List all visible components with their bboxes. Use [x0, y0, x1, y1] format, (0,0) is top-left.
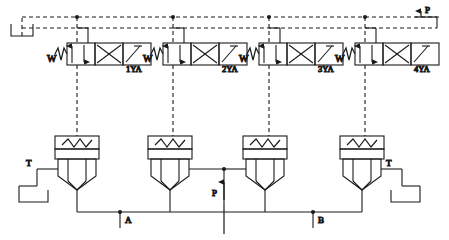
solenoid-diagonal-2 [222, 46, 236, 62]
solenoid-valve-4-label: 4YA [414, 64, 430, 74]
cv1-poppet-body [58, 159, 96, 190]
cv3-spring [250, 139, 280, 147]
line-t-right [402, 169, 420, 186]
junction-dot-1 [75, 15, 79, 19]
solenoid-valve-3[interactable] [247, 43, 343, 65]
pilot-solid-valve-3 [269, 28, 280, 43]
cv1-mid-chamber [55, 149, 99, 159]
cv3-mid-chamber [243, 149, 287, 159]
valve-box-a-3 [259, 43, 287, 65]
valve-box-a-4 [355, 43, 383, 65]
spring-symbol-2 [151, 48, 163, 60]
port-a [118, 210, 122, 228]
solenoid-diagonal-1 [126, 46, 140, 62]
cv1-spring [62, 139, 92, 147]
cv4-poppet-body [343, 159, 381, 190]
cartridge-valve-4[interactable] [340, 136, 384, 190]
spring-symbol-1 [55, 48, 67, 60]
cartridge-valve-2[interactable] [148, 136, 192, 190]
spring-symbol-4 [343, 48, 355, 60]
solenoid-diagonal-4 [414, 46, 428, 62]
line-t-left [19, 169, 37, 186]
valve-box-a-2 [163, 43, 191, 65]
valve-box-a-1 [67, 43, 95, 65]
port-p-bottom [222, 167, 226, 234]
spring-label-1: W [47, 53, 57, 64]
cv2-poppet-body [151, 159, 189, 190]
spring-label-3: W [239, 53, 249, 64]
tank-bottom-left [19, 186, 48, 202]
spring-label-2: W [143, 53, 153, 64]
solenoid-valve-2-label: 2YA [222, 64, 238, 74]
port-b-label: B [318, 215, 324, 225]
solenoid-valve-4[interactable] [343, 43, 439, 65]
cv4-spring [347, 139, 377, 147]
port-p-bottom-label: P [212, 188, 217, 198]
port-t-left-label: T [26, 158, 32, 168]
tank-bottom-right [391, 186, 420, 202]
schematic-canvas: P 1YA W 2YA [0, 0, 449, 240]
solenoid-valve-1[interactable] [55, 43, 151, 65]
port-p-top-label: P [425, 5, 430, 15]
junction-dot-2 [171, 15, 175, 19]
port-b [311, 210, 315, 228]
solenoid-valve-2[interactable] [151, 43, 247, 65]
cv4-mid-chamber [340, 149, 384, 159]
cartridge-valve-1[interactable] [55, 136, 99, 190]
pilot-solid-valve-2 [173, 28, 184, 43]
spring-label-4: W [335, 53, 345, 64]
solenoid-diagonal-3 [318, 46, 332, 62]
port-a-label: A [125, 215, 132, 225]
spring-symbol-3 [247, 48, 259, 60]
cartridge-valve-3[interactable] [243, 136, 287, 190]
solenoid-valve-3-label: 3YA [318, 64, 334, 74]
cv2-spring [155, 139, 185, 147]
junction-dot-3 [267, 15, 271, 19]
cv2-mid-chamber [148, 149, 192, 159]
cv3-poppet-body [246, 159, 284, 190]
port-t-right-label: T [386, 158, 392, 168]
solenoid-valve-1-label: 1YA [126, 64, 142, 74]
hydraulic-schematic: P 1YA W 2YA [0, 0, 449, 240]
pilot-solid-valve-1 [77, 28, 88, 43]
pilot-line-tank-top-left [22, 17, 440, 36]
pilot-solid-valve-4 [365, 28, 376, 43]
junction-dot-4 [363, 15, 367, 19]
